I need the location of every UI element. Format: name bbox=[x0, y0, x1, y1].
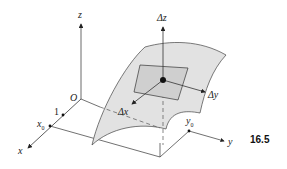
figure-number: 16.5 bbox=[250, 135, 269, 145]
y-label: y bbox=[228, 137, 232, 147]
z-label: z bbox=[78, 10, 82, 20]
x-label: x bbox=[18, 146, 22, 156]
delta-x-label: Δx bbox=[118, 107, 128, 117]
y-axis bbox=[189, 131, 224, 141]
x0-label: x0 bbox=[37, 119, 44, 131]
point bbox=[160, 77, 166, 83]
origin-label: O bbox=[70, 93, 77, 103]
delta-z-label: Δz bbox=[157, 13, 167, 23]
y0-label: y0 bbox=[186, 116, 193, 128]
delta-y-label: Δy bbox=[208, 90, 218, 100]
diagram-canvas: z O 1 x0 x y0 y Δz Δy Δx 16.5 bbox=[0, 0, 287, 169]
one-label: 1 bbox=[54, 107, 59, 117]
surface-diagram bbox=[0, 0, 287, 169]
